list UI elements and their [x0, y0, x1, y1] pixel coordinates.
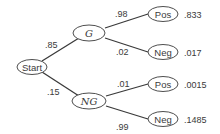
node-ng-neg-label: Neg	[154, 114, 171, 125]
joint-ng-neg: .1485	[184, 115, 207, 125]
node-g-pos-label: Pos	[155, 9, 172, 20]
prob-ng-pos: .01	[117, 79, 130, 89]
node-start-label: Start	[22, 62, 42, 73]
node-ng-pos-label: Pos	[155, 79, 172, 90]
node-g-neg-label: Neg	[154, 47, 171, 58]
prob-g-pos: .98	[115, 9, 128, 19]
node-g-label: G	[85, 28, 93, 39]
prob-start-g: .85	[45, 40, 58, 50]
joint-ng-pos: .0015	[184, 80, 207, 90]
prob-g-neg: .02	[116, 47, 129, 57]
prob-start-ng: .15	[47, 87, 60, 97]
edge-ng-neg	[106, 106, 148, 119]
joint-g-pos: .833	[184, 10, 202, 20]
joint-g-neg: .017	[184, 48, 202, 58]
node-ng-label: NG	[80, 96, 98, 107]
probability-tree-diagram: Start G NG Pos Neg Pos Neg .85 .15 .98 .…	[0, 0, 220, 134]
prob-ng-neg: .99	[116, 122, 129, 132]
